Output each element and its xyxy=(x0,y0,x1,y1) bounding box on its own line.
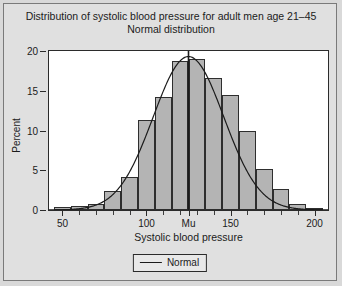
legend-line-icon xyxy=(140,262,162,263)
x-tick-mark-minor xyxy=(96,211,97,215)
x-tick-mark-minor xyxy=(197,211,198,215)
y-axis-label: Percent xyxy=(11,103,22,169)
x-tick-mark xyxy=(231,211,232,216)
x-tick-mark-minor xyxy=(264,211,265,215)
chart-title: Distribution of systolic blood pressure … xyxy=(4,10,338,36)
chart-title-line-1: Distribution of systolic blood pressure … xyxy=(4,10,338,23)
x-tick-mark-minor xyxy=(113,211,114,215)
x-tick-mark-minor xyxy=(298,211,299,215)
x-tick-label: 100 xyxy=(138,218,155,229)
x-tick-mark xyxy=(189,211,190,216)
y-tick-label: 10 xyxy=(27,125,38,136)
legend-label-normal: Normal xyxy=(167,257,199,268)
x-tick-mark-minor xyxy=(281,211,282,215)
y-tick-label: 0 xyxy=(32,205,38,216)
x-tick-mark xyxy=(315,211,316,216)
x-axis-label: Systolic blood pressure xyxy=(48,231,329,243)
x-tick-mark xyxy=(62,211,63,216)
y-axis: Percent 05101520 xyxy=(4,44,48,219)
x-tick-label: 50 xyxy=(57,218,68,229)
x-tick-mark-minor xyxy=(214,211,215,215)
x-tick-label: Mu xyxy=(182,218,196,229)
y-tick-label: 15 xyxy=(27,85,38,96)
y-tick-mark xyxy=(40,131,46,132)
x-tick-mark-minor xyxy=(247,211,248,215)
legend: Normal xyxy=(133,254,207,272)
y-tick-mark xyxy=(40,91,46,92)
y-tick-mark xyxy=(40,51,46,52)
mu-reference-line xyxy=(49,51,328,210)
plot-area xyxy=(48,50,329,211)
y-tick-mark xyxy=(40,170,46,171)
figure-panel: Distribution of systolic blood pressure … xyxy=(3,3,337,281)
x-tick-mark xyxy=(146,211,147,216)
y-tick-mark xyxy=(40,210,46,211)
x-tick-mark-minor xyxy=(163,211,164,215)
x-tick-mark-minor xyxy=(130,211,131,215)
chart-title-line-2: Normal distribution xyxy=(4,23,338,36)
x-tick-mark-minor xyxy=(79,211,80,215)
y-tick-label: 5 xyxy=(32,165,38,176)
y-tick-label: 20 xyxy=(27,46,38,57)
x-tick-label: 200 xyxy=(306,218,323,229)
x-tick-label: 150 xyxy=(222,218,239,229)
x-tick-mark-minor xyxy=(180,211,181,215)
